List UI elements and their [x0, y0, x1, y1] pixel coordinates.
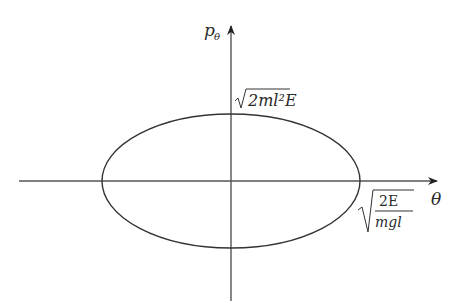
p-max-annotation: 2ml²E	[235, 89, 297, 110]
phase-space-diagram: p θ θ 2ml²E 2E mgl	[0, 0, 459, 305]
theta-max-annotation: 2E mgl	[358, 190, 414, 232]
theta-max-numerator: 2E	[379, 193, 398, 209]
y-axis-label-subscript: θ	[214, 31, 220, 42]
theta-max-denominator: mgl	[375, 214, 402, 230]
x-axis-label: θ	[431, 189, 441, 209]
p-max-radicand: 2ml²E	[247, 91, 297, 110]
